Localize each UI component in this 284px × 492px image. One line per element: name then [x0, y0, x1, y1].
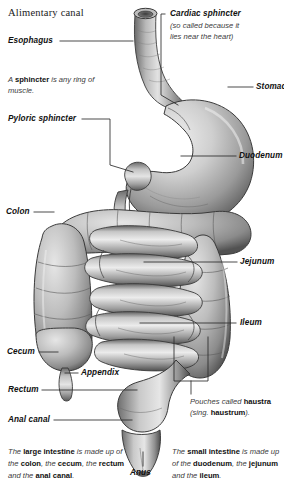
label-colon: Colon: [6, 207, 30, 216]
note-sphincter-pre: A: [8, 75, 15, 84]
label-anus: Anus: [130, 468, 151, 477]
note-haustra-pre: Pouches called: [190, 397, 244, 406]
cap-li-b1: large intestine: [23, 447, 74, 456]
cap-si-p5: .: [219, 471, 221, 480]
cap-li-p1: The: [8, 447, 23, 456]
cap-si-p1: The: [172, 447, 187, 456]
cecum-shape: [36, 328, 92, 371]
cap-li-b5: anal canal: [35, 471, 72, 480]
appendix-shape: [59, 368, 72, 401]
stomach-shape: [126, 100, 254, 227]
note-sphincter: A sphincter is any ring of muscle.: [8, 74, 112, 96]
cap-li-b2: colon: [21, 459, 41, 468]
page-title: Alimentary canal: [8, 7, 84, 18]
small-intestine-shape: [85, 226, 203, 371]
note-haustra-term: haustra: [244, 397, 271, 406]
label-cardiac-sphincter: Cardiac sphincter: [170, 9, 241, 18]
cap-li-p6: .: [72, 471, 74, 480]
cap-li-p4: , the: [82, 459, 99, 468]
note-haustra-post: ).: [245, 408, 250, 417]
note-cardiac-line1: (so called because it: [170, 21, 239, 30]
cap-si-b1: small intestine: [187, 447, 240, 456]
note-sphincter-term: sphincter: [15, 75, 49, 84]
cap-si-p3: , the: [232, 459, 249, 468]
cap-li-b3: cecum: [58, 459, 82, 468]
alimentary-canal-figure: Alimentary canal Esophagus Cardiac sphin…: [0, 0, 284, 492]
caption-small-intestine: The small intestine is made up of the du…: [172, 446, 284, 481]
label-rectum: Rectum: [8, 385, 39, 394]
cap-si-b2: duodenum: [193, 459, 232, 468]
cap-si-b3: jejunum: [249, 459, 278, 468]
note-haustra-term-singular: haustrum: [211, 408, 246, 417]
label-ileum: Ileum: [240, 318, 262, 327]
label-cecum: Cecum: [7, 347, 35, 356]
label-stomach: Stomach: [256, 82, 284, 91]
cap-li-p5: and the: [8, 471, 35, 480]
cap-si-b4: ileum: [199, 471, 219, 480]
label-anal-canal: Anal canal: [8, 415, 50, 424]
note-haustra-mid: (sing.: [190, 408, 211, 417]
note-haustra: Pouches called haustra (sing. haustrum).: [190, 396, 284, 418]
caption-large-intestine: The large intestine is made up of the co…: [8, 446, 132, 481]
cap-si-p4: and the: [172, 471, 199, 480]
note-cardiac-sphincter: (so called because it lies near the hear…: [170, 20, 278, 42]
cap-li-b4: rectum: [99, 459, 124, 468]
label-jejunum: Jejunum: [240, 257, 274, 266]
label-appendix: Appendix: [81, 368, 119, 377]
label-pyloric-sphincter: Pyloric sphincter: [8, 114, 76, 123]
label-duodenum: Duodenum: [239, 151, 283, 160]
label-esophagus: Esophagus: [8, 36, 53, 45]
note-cardiac-line2: lies near the heart): [170, 32, 233, 41]
cap-li-p3: , the: [41, 459, 58, 468]
